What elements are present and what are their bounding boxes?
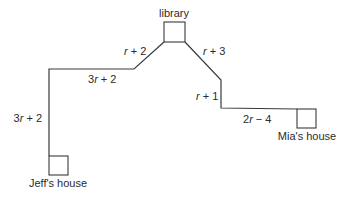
segment-label-mia-vertical: r + 1	[196, 90, 218, 102]
jeff-house-box	[49, 156, 68, 175]
route-diagram: library Jeff's house Mia's house 3r + 2 …	[0, 0, 351, 199]
segment-label-jeff-vertical: 3r + 2	[14, 112, 42, 124]
library-label: library	[159, 7, 189, 19]
mia-house-label: Mia's house	[278, 130, 336, 142]
segment-label-right-diagonal: r + 3	[203, 45, 225, 57]
segment-label-jeff-horizontal: 3r + 2	[88, 73, 116, 85]
segment-label-mia-horizontal: 2r − 4	[243, 113, 271, 125]
segment-label-left-diagonal: r + 2	[124, 45, 146, 57]
route-path-jeff-to-library	[49, 42, 164, 156]
jeff-house-label: Jeff's house	[29, 177, 87, 189]
mia-house-box	[297, 109, 316, 128]
library-box	[164, 22, 185, 42]
